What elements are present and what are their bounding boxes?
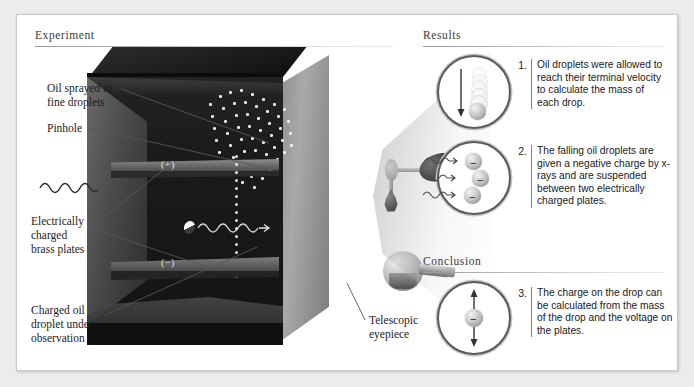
callout-telescopic-eyepiece: Telescopic eyepiece	[369, 313, 418, 341]
result-1-number: 1.	[513, 59, 527, 71]
callout-pinhole: Pinhole	[47, 121, 82, 135]
callout-brass-plates: Electrically charged brass plates	[31, 214, 84, 256]
callout-brass-plates-line2: charged	[31, 228, 84, 242]
callout-telescopic-eyepiece-line1: Telescopic	[369, 313, 418, 327]
callout-brass-plates-line1: Electrically	[31, 214, 84, 228]
callout-brass-plates-line3: brass plates	[31, 242, 84, 256]
result-2-charge-3: −	[469, 192, 475, 203]
conclusion-3-charge: −	[470, 314, 476, 325]
conclusion-heading-rule	[423, 272, 665, 273]
result-2-number: 2.	[513, 145, 527, 157]
callout-charged-droplet-line1: Charged oil	[31, 303, 93, 317]
falling-droplet-inset	[437, 55, 511, 129]
result-2-charge-2: −	[477, 175, 483, 186]
charged-droplets-inset: − − −	[437, 141, 511, 215]
callout-charged-droplet-line3: observation	[31, 331, 93, 345]
results-heading-rule	[423, 46, 665, 47]
conclusion-heading: Conclusion	[423, 255, 481, 267]
result-2-text: The falling oil droplets are given a neg…	[531, 145, 671, 208]
callout-oil-sprayed-line1: Oil sprayed in	[47, 81, 112, 95]
results-heading: Results	[423, 29, 461, 41]
callout-telescopic-eyepiece-line2: eyepiece	[369, 327, 418, 341]
results-panel: Results 1. Oil droplets were a	[413, 15, 677, 370]
suspended-droplet-inset: −	[437, 281, 511, 355]
result-2-charge-1: −	[470, 158, 476, 169]
callout-oil-sprayed-line2: fine droplets	[47, 95, 112, 109]
figure-page: Experiment	[0, 0, 694, 387]
conclusion-3-text: The charge on the drop can be calculated…	[531, 287, 673, 337]
result-1-text: Oil droplets were allowed to reach their…	[531, 59, 667, 109]
experiment-panel: Experiment	[17, 15, 412, 370]
xray-arrows-icon	[423, 143, 509, 213]
callout-oil-sprayed: Oil sprayed in fine droplets	[47, 81, 112, 109]
conclusion-3-number: 3.	[513, 287, 527, 299]
callout-pinhole-line1: Pinhole	[47, 121, 82, 135]
callout-charged-droplet-line2: droplet under	[31, 317, 93, 331]
figure-card: Experiment	[16, 14, 678, 371]
callout-charged-droplet: Charged oil droplet under observation	[31, 303, 93, 345]
